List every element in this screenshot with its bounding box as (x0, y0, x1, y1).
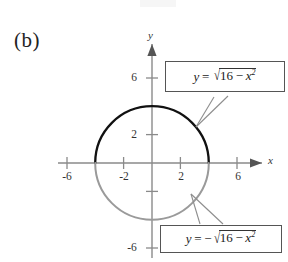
y-tick-label-6: 6 (126, 71, 142, 83)
lower-radicand: 16 − x2 (219, 230, 256, 244)
upper-exponent: 2 (251, 68, 255, 77)
lower-radical: √16 − x2 (212, 231, 257, 246)
y-axis-label: y (148, 29, 153, 41)
x-axis-label: x (268, 154, 273, 166)
upper-equation-callout: y = √16 − x2 (165, 61, 285, 92)
y-axis-arrow (147, 44, 156, 56)
graph-canvas (0, 0, 288, 262)
y-tick-label--6: -6 (122, 241, 142, 253)
x-tick-label--6: -6 (57, 170, 77, 182)
lower-eq-lhs: y (186, 232, 192, 247)
upper-radical: √16 − x2 (212, 69, 257, 84)
lower-radicand-minus: − (235, 231, 242, 246)
upper-radicand-minus: − (236, 68, 243, 83)
x-axis-arrow (250, 158, 262, 167)
upper-eq-operator: = (202, 69, 209, 84)
upper-radicand-a: 16 (220, 68, 233, 83)
lower-eq-sign: − (204, 232, 211, 247)
upper-eq-lhs: y (194, 69, 200, 84)
lower-equation-text: y = −√16 − x2 (186, 231, 256, 246)
upper-callout-leader (196, 96, 228, 127)
lower-eq-operator: = (194, 232, 201, 247)
x-tick-label-2: 2 (171, 170, 191, 182)
lower-equation-callout: y = −√16 − x2 (160, 225, 282, 253)
figure-panel: (b) -6 -2 (0, 0, 288, 262)
y-tick-label-2: 2 (126, 128, 142, 140)
lower-radicand-a: 16 (220, 231, 233, 246)
upper-equation-text: y = √16 − x2 (194, 69, 257, 84)
lower-callout-leader (191, 194, 223, 224)
x-tick-label-6: 6 (228, 170, 248, 182)
x-tick-label--2: -2 (114, 170, 134, 182)
lower-exponent: 2 (251, 230, 255, 239)
upper-radicand: 16 − x2 (219, 68, 256, 82)
